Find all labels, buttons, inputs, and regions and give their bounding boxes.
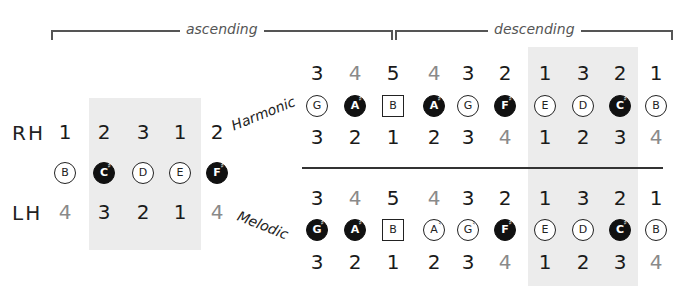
finger-number: 1 bbox=[168, 121, 192, 143]
finger-number: 3 bbox=[608, 126, 632, 148]
sharp-icon: ♯ bbox=[509, 219, 512, 227]
note-dark-icon: A♯ bbox=[423, 95, 445, 117]
finger-number: 1 bbox=[644, 187, 668, 209]
finger-number: 1 bbox=[168, 201, 192, 223]
finger-number: 4 bbox=[53, 201, 77, 223]
note-square-icon: B bbox=[382, 219, 404, 241]
note-circle-icon: G bbox=[457, 95, 479, 117]
note-name: G bbox=[464, 99, 473, 112]
note-circle-icon: B bbox=[645, 219, 667, 241]
note-circle-icon: G bbox=[306, 95, 328, 117]
sharp-icon: ♯ bbox=[321, 219, 324, 227]
note-circle-icon: D bbox=[132, 162, 154, 184]
finger-number: 2 bbox=[608, 187, 632, 209]
finger-number: 3 bbox=[305, 251, 329, 273]
note-name: F bbox=[501, 223, 509, 236]
descending-label: descending bbox=[488, 21, 581, 37]
note-name: E bbox=[177, 166, 184, 179]
note-name: E bbox=[542, 99, 549, 112]
finger-number: 2 bbox=[493, 62, 517, 84]
note-dark-icon: G♯ bbox=[306, 219, 328, 241]
finger-number: 3 bbox=[456, 126, 480, 148]
finger-number: 4 bbox=[644, 126, 668, 148]
melodic-label: Melodic bbox=[235, 208, 291, 243]
rh-label: RH bbox=[12, 121, 45, 145]
sharp-icon: ♯ bbox=[359, 219, 362, 227]
finger-number: 2 bbox=[131, 201, 155, 223]
note-circle-icon: D bbox=[572, 95, 594, 117]
note-dark-icon: A♯ bbox=[344, 95, 366, 117]
sharp-icon: ♯ bbox=[221, 162, 224, 170]
note-name: D bbox=[579, 223, 587, 236]
finger-number: 2 bbox=[92, 121, 116, 143]
sharp-icon: ♯ bbox=[359, 95, 362, 103]
finger-number: 3 bbox=[456, 251, 480, 273]
note-name: B bbox=[61, 166, 69, 179]
finger-number: 3 bbox=[571, 187, 595, 209]
natural-icon: ♮ bbox=[438, 219, 441, 227]
finger-number: 4 bbox=[493, 251, 517, 273]
note-dark-icon: F♯ bbox=[494, 95, 516, 117]
note-dark-icon: F♯ bbox=[494, 219, 516, 241]
note-name: B bbox=[389, 99, 397, 112]
finger-number: 2 bbox=[422, 126, 446, 148]
finger-number: 3 bbox=[305, 126, 329, 148]
finger-number: 1 bbox=[381, 251, 405, 273]
finger-number: 3 bbox=[305, 187, 329, 209]
sharp-icon: ♯ bbox=[438, 95, 441, 103]
finger-number: 3 bbox=[608, 251, 632, 273]
note-circle-icon: G♮ bbox=[457, 219, 479, 241]
finger-number: 4 bbox=[343, 62, 367, 84]
finger-number: 3 bbox=[92, 201, 116, 223]
finger-number: 2 bbox=[343, 251, 367, 273]
sharp-icon: ♯ bbox=[509, 95, 512, 103]
note-name: G bbox=[464, 223, 473, 236]
note-name: G bbox=[313, 99, 322, 112]
note-name: E bbox=[542, 223, 549, 236]
note-name: A bbox=[430, 223, 438, 236]
finger-number: 3 bbox=[131, 121, 155, 143]
finger-number: 3 bbox=[456, 187, 480, 209]
finger-number: 5 bbox=[381, 62, 405, 84]
note-circle-icon: E bbox=[534, 219, 556, 241]
finger-number: 2 bbox=[493, 187, 517, 209]
finger-number: 4 bbox=[644, 251, 668, 273]
note-circle-icon: E bbox=[169, 162, 191, 184]
note-square-icon: B bbox=[382, 95, 404, 117]
finger-number: 4 bbox=[422, 187, 446, 209]
finger-number: 3 bbox=[456, 62, 480, 84]
note-name: F bbox=[501, 99, 509, 112]
finger-number: 1 bbox=[533, 126, 557, 148]
note-circle-icon: D bbox=[572, 219, 594, 241]
finger-number: 2 bbox=[205, 121, 229, 143]
note-name: B bbox=[652, 223, 660, 236]
finger-number: 2 bbox=[343, 126, 367, 148]
finger-number: 4 bbox=[493, 126, 517, 148]
finger-number: 2 bbox=[608, 62, 632, 84]
lh-label: LH bbox=[12, 201, 42, 225]
note-circle-icon: B bbox=[54, 162, 76, 184]
note-name: B bbox=[652, 99, 660, 112]
note-dark-icon: C♯ bbox=[93, 162, 115, 184]
note-name: D bbox=[139, 166, 147, 179]
finger-number: 2 bbox=[571, 251, 595, 273]
finger-number: 1 bbox=[53, 121, 77, 143]
ascending-label: ascending bbox=[180, 21, 264, 37]
finger-number: 1 bbox=[533, 62, 557, 84]
natural-icon: ♮ bbox=[472, 219, 475, 227]
finger-number: 1 bbox=[381, 126, 405, 148]
note-name: F bbox=[213, 166, 221, 179]
note-name: D bbox=[579, 99, 587, 112]
finger-number: 1 bbox=[644, 62, 668, 84]
finger-number: 4 bbox=[205, 201, 229, 223]
finger-number: 3 bbox=[305, 62, 329, 84]
section-separator bbox=[302, 167, 663, 169]
finger-number: 3 bbox=[571, 62, 595, 84]
finger-number: 4 bbox=[422, 62, 446, 84]
finger-number: 4 bbox=[343, 187, 367, 209]
sharp-icon: ♯ bbox=[624, 95, 627, 103]
finger-number: 2 bbox=[571, 126, 595, 148]
note-dark-icon: C♯ bbox=[609, 219, 631, 241]
note-circle-icon: B bbox=[645, 95, 667, 117]
finger-number: 1 bbox=[533, 251, 557, 273]
